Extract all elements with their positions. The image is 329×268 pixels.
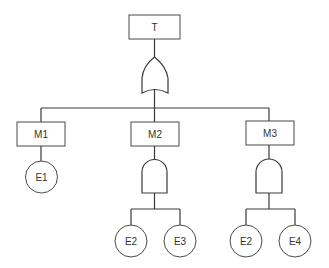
event-label: M3 [263, 128, 277, 139]
fault-tree-diagram: T M1 E1 M2 E2 E3 M3 [0, 0, 329, 268]
event-label: E2 [125, 236, 138, 247]
event-label: E1 [35, 172, 48, 183]
event-label: E2 [240, 236, 253, 247]
basic-event-e2-second: E2 [230, 225, 262, 257]
event-label: T [151, 22, 157, 33]
intermediate-event-m3: M3 [246, 121, 294, 145]
intermediate-event-m2: M2 [131, 122, 179, 146]
and-gate-icon [142, 159, 167, 193]
event-label: M2 [148, 129, 162, 140]
event-label: E4 [289, 236, 302, 247]
basic-event-e1: E1 [26, 161, 58, 193]
event-label: M1 [34, 129, 48, 140]
basic-event-e2: E2 [115, 225, 147, 257]
or-gate-icon [142, 57, 168, 93]
intermediate-event-m1: M1 [17, 122, 65, 146]
basic-event-e4: E4 [279, 225, 311, 257]
basic-event-e3: E3 [164, 225, 196, 257]
and-gate-icon [256, 159, 282, 193]
top-event-t: T [129, 15, 180, 39]
event-label: E3 [174, 236, 187, 247]
